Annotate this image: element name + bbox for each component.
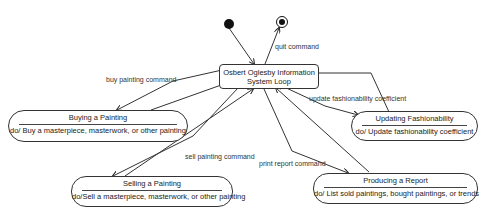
state-activity: do/ Buy a masterpiece, masterwork, or ot… <box>9 126 187 137</box>
central-state-line2: System Loop <box>220 77 318 86</box>
state-activity: do/Sell a masterpiece, masterwork, or ot… <box>72 192 232 203</box>
state-selling-a-painting[interactable]: Selling a Painting do/Sell a masterpiece… <box>71 176 233 207</box>
divider <box>19 124 177 125</box>
state-name: Updating Fashionability <box>352 112 477 123</box>
transition-label-buy: buy painting command <box>106 76 176 83</box>
state-activity: do/ Update fashionability coefficient <box>352 127 477 138</box>
state-buying-a-painting[interactable]: Buying a Painting do/ Buy a masterpiece,… <box>8 110 188 142</box>
transition-label-update: update fashionability coefficient <box>309 95 406 102</box>
divider <box>362 125 467 126</box>
divider <box>82 190 222 191</box>
transition-label-quit: quit command <box>275 43 319 50</box>
state-name: Buying a Painting <box>9 111 187 122</box>
state-name: Producing a Report <box>314 174 477 185</box>
transition-label-sell: sell painting command <box>185 153 255 160</box>
state-updating-fashionability[interactable]: Updating Fashionability do/ Update fashi… <box>351 111 478 141</box>
divider <box>324 187 467 188</box>
state-producing-a-report[interactable]: Producing a Report do/ List sold paintin… <box>313 173 478 204</box>
central-state-system-loop[interactable]: Osbert Oglesby Information System Loop <box>219 64 319 89</box>
initial-state-icon <box>224 19 234 29</box>
central-state-line1: Osbert Oglesby Information <box>220 68 318 77</box>
state-name: Selling a Painting <box>72 177 232 188</box>
final-state-icon <box>276 16 288 28</box>
transition-label-print: print report command <box>259 160 326 167</box>
state-activity: do/ List sold paintings, bought painting… <box>314 189 477 200</box>
